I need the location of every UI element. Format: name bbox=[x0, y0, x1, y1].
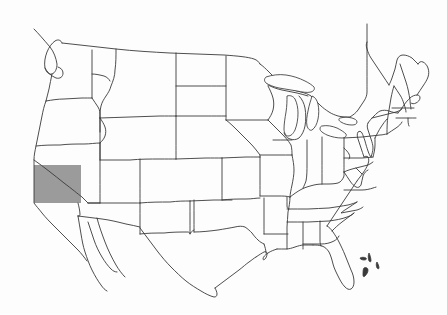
highlight-nevada bbox=[34, 165, 81, 203]
island-andros bbox=[360, 257, 366, 260]
map-background bbox=[0, 0, 447, 315]
map-figure bbox=[0, 0, 447, 315]
us-outline-map bbox=[0, 0, 447, 315]
